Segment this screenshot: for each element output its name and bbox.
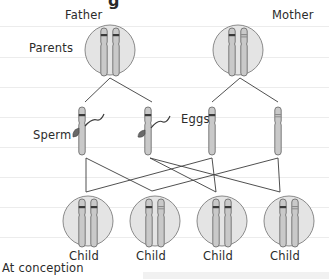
sperm-label: Sperm bbox=[33, 128, 71, 142]
footer-bar bbox=[143, 272, 329, 279]
mother-cell bbox=[213, 25, 263, 76]
meiosis-lines bbox=[85, 78, 278, 102]
fertilization-lines bbox=[86, 158, 280, 192]
egg-1 bbox=[209, 107, 215, 155]
sperm-1 bbox=[73, 107, 104, 155]
eggs-label: Eggs bbox=[181, 112, 210, 126]
child-label-4: Child bbox=[270, 249, 300, 263]
child-label-2: Child bbox=[136, 249, 166, 263]
sperm-2 bbox=[138, 107, 170, 155]
child-cell-1 bbox=[63, 196, 113, 247]
father-label: Father bbox=[65, 8, 102, 22]
child-label-3: Child bbox=[203, 249, 233, 263]
egg-2 bbox=[275, 107, 281, 155]
at-conception-label: At conception bbox=[2, 261, 84, 275]
parents-label: Parents bbox=[29, 41, 73, 55]
father-cell bbox=[85, 25, 135, 76]
child-cell-3 bbox=[197, 196, 247, 247]
mother-label: Mother bbox=[272, 8, 314, 22]
child-cell-2 bbox=[130, 196, 180, 247]
child-cell-4 bbox=[264, 196, 314, 247]
